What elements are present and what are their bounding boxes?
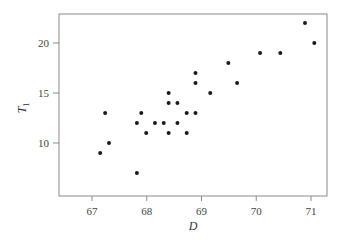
data-point: [167, 101, 171, 105]
data-point: [167, 131, 171, 135]
data-points: [98, 21, 316, 175]
x-tick-label: 70: [251, 205, 263, 217]
data-point: [167, 91, 171, 95]
y-tick-label: 20: [38, 37, 50, 49]
data-point: [144, 131, 148, 135]
data-point: [185, 131, 189, 135]
data-point: [193, 81, 197, 85]
y-tick-label: 15: [38, 87, 50, 99]
data-point: [208, 91, 212, 95]
data-point: [175, 101, 179, 105]
x-axis-ticks: 6768697071: [87, 196, 317, 217]
scatter-chart: 6768697071 101520 D T1: [0, 0, 344, 240]
data-point: [193, 111, 197, 115]
data-point: [278, 51, 282, 55]
x-axis-label: D: [188, 219, 198, 233]
data-point: [185, 111, 189, 115]
data-point: [312, 41, 316, 45]
y-axis-ticks: 101520: [38, 37, 59, 149]
y-tick-label: 10: [38, 137, 50, 149]
data-point: [162, 121, 166, 125]
data-point: [153, 121, 157, 125]
data-point: [175, 121, 179, 125]
x-tick-label: 67: [87, 205, 99, 217]
x-tick-label: 68: [141, 205, 153, 217]
data-point: [103, 111, 107, 115]
data-point: [258, 51, 262, 55]
y-axis-label: T1: [15, 103, 31, 114]
data-point: [135, 171, 139, 175]
data-point: [135, 121, 139, 125]
data-point: [193, 71, 197, 75]
data-point: [107, 141, 111, 145]
data-point: [139, 111, 143, 115]
data-point: [98, 151, 102, 155]
x-tick-label: 71: [306, 205, 317, 217]
data-point: [226, 61, 230, 65]
data-point: [235, 81, 239, 85]
data-point: [303, 21, 307, 25]
x-tick-label: 69: [196, 205, 208, 217]
plot-frame: [59, 14, 327, 196]
